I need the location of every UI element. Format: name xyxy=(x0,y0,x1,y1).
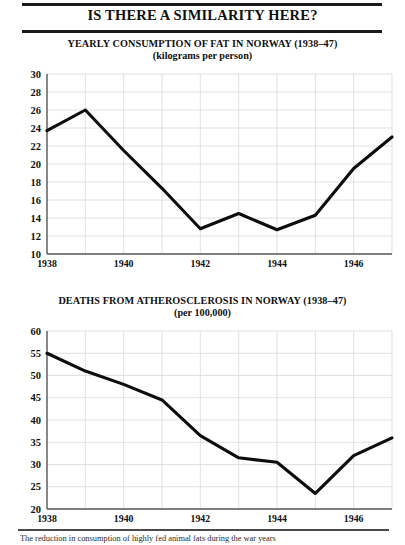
y-tick-label: 50 xyxy=(31,370,42,381)
chart1-title: YEARLY CONSUMPTION OF FAT IN NORWAY (193… xyxy=(0,38,405,50)
x-tick-label: 1942 xyxy=(191,513,211,524)
y-tick-label: 22 xyxy=(31,140,42,151)
x-tick-label: 1944 xyxy=(267,258,287,269)
chart-atherosclerosis-deaths: DEATHS FROM ATHEROSCLEROSIS IN NORWAY (1… xyxy=(0,295,405,540)
chart2-plot-area: 20253035404550556019381940194219441946 xyxy=(0,323,405,538)
chart2-title: DEATHS FROM ATHEROSCLEROSIS IN NORWAY (1… xyxy=(0,295,405,307)
footer-caption: The reduction in consumption of highly f… xyxy=(20,534,400,545)
footer-rule xyxy=(18,529,389,531)
y-tick-label: 40 xyxy=(31,414,42,425)
y-tick-label: 14 xyxy=(31,212,42,223)
x-tick-label: 1938 xyxy=(37,513,57,524)
figure-page: IS THERE A SIMILARITY HERE? YEARLY CONSU… xyxy=(0,0,405,545)
y-tick-label: 28 xyxy=(31,86,42,97)
data-series-line xyxy=(47,353,392,493)
header-rule-top xyxy=(22,3,382,6)
y-tick-label: 60 xyxy=(31,325,42,336)
y-tick-label: 26 xyxy=(31,104,42,115)
x-tick-label: 1944 xyxy=(267,513,287,524)
x-tick-label: 1942 xyxy=(191,258,211,269)
page-title: IS THERE A SIMILARITY HERE? xyxy=(0,7,405,24)
y-tick-label: 20 xyxy=(31,158,42,169)
y-tick-label: 45 xyxy=(31,392,42,403)
x-tick-label: 1940 xyxy=(114,258,134,269)
chart1-plot-area: 1012141618202224262830193819401942194419… xyxy=(0,66,405,291)
y-tick-label: 30 xyxy=(31,68,42,79)
chart2-svg: 20253035404550556019381940194219441946 xyxy=(0,323,405,538)
chart-fat-consumption: YEARLY CONSUMPTION OF FAT IN NORWAY (193… xyxy=(0,38,405,288)
chart2-subtitle: (per 100,000) xyxy=(0,307,405,319)
x-tick-label: 1940 xyxy=(114,513,134,524)
y-tick-label: 25 xyxy=(31,481,42,492)
y-tick-label: 18 xyxy=(31,176,42,187)
x-tick-label: 1946 xyxy=(344,258,364,269)
x-tick-label: 1938 xyxy=(37,258,57,269)
chart1-svg: 1012141618202224262830193819401942194419… xyxy=(0,66,405,291)
y-tick-label: 55 xyxy=(31,348,42,359)
y-tick-label: 24 xyxy=(31,122,42,133)
chart1-subtitle: (kilograms per person) xyxy=(0,50,405,62)
y-tick-label: 16 xyxy=(31,194,42,205)
header-rule-bottom xyxy=(22,30,382,33)
y-tick-label: 12 xyxy=(31,230,42,241)
x-tick-label: 1946 xyxy=(344,513,364,524)
y-tick-label: 35 xyxy=(31,437,42,448)
y-tick-label: 30 xyxy=(31,459,42,470)
